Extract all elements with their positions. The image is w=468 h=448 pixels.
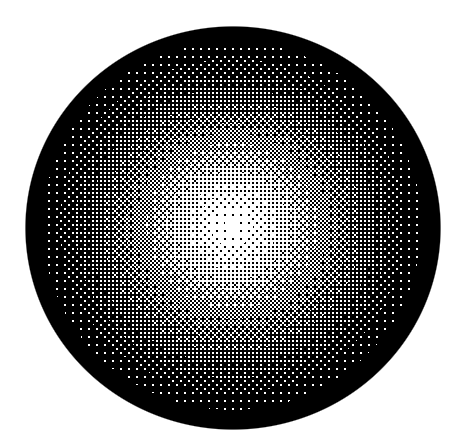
canvas-stage [0,0,468,448]
shaded-sphere [0,0,468,448]
